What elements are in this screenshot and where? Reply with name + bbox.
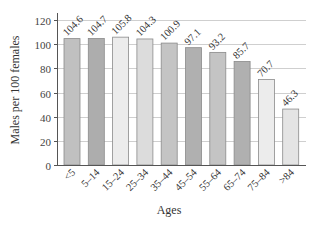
bar xyxy=(258,80,274,165)
x-category-label: 15–24 xyxy=(100,166,127,193)
y-tick-label: 60 xyxy=(40,88,52,100)
x-category-label: 35–44 xyxy=(148,166,175,193)
value-label: 70.7 xyxy=(255,58,276,79)
value-label: 97.1 xyxy=(182,26,203,47)
bar xyxy=(234,61,250,165)
value-label: 104.3 xyxy=(134,14,158,38)
y-axis-ticks: 020406080100120 xyxy=(35,15,58,172)
x-category-label: 25–34 xyxy=(124,166,151,193)
x-category-label: 55–64 xyxy=(197,166,224,193)
y-tick-label: 20 xyxy=(40,136,52,148)
bar xyxy=(64,39,80,165)
x-category-label: 45–54 xyxy=(173,166,200,193)
value-label: 100.9 xyxy=(158,18,182,42)
bar xyxy=(283,109,299,165)
y-tick-label: 120 xyxy=(35,15,52,27)
x-category-label: >84 xyxy=(277,166,297,186)
bar xyxy=(161,43,177,165)
value-label: 105.8 xyxy=(109,12,133,36)
value-label: 85.7 xyxy=(231,40,252,61)
value-label: 93.2 xyxy=(206,31,227,52)
y-tick-label: 40 xyxy=(40,112,52,124)
x-category-label: 75–84 xyxy=(245,166,272,193)
value-label: 104.7 xyxy=(85,13,109,37)
x-category-label: 65–74 xyxy=(221,166,248,193)
y-tick-label: 100 xyxy=(35,39,52,51)
y-tick-label: 0 xyxy=(46,160,52,172)
x-category-label: 5–14 xyxy=(79,166,102,189)
x-category-label: <5 xyxy=(62,167,78,183)
x-axis-category-labels: <55–1415–2425–3435–4445–5455–6465–7475–8… xyxy=(62,166,297,193)
y-axis-title: Males per 100 females xyxy=(8,35,22,144)
bar xyxy=(137,39,153,165)
bars xyxy=(64,37,299,165)
x-axis-title: Ages xyxy=(157,203,182,217)
y-tick-label: 80 xyxy=(40,63,52,75)
bar xyxy=(186,48,202,165)
bar xyxy=(113,37,129,165)
value-label: 104.6 xyxy=(61,14,85,38)
value-label: 46.3 xyxy=(279,88,300,109)
bar xyxy=(210,52,226,165)
bar-chart: 020406080100120 104.6104.7105.8104.3100.… xyxy=(0,0,322,226)
bar xyxy=(88,38,104,165)
